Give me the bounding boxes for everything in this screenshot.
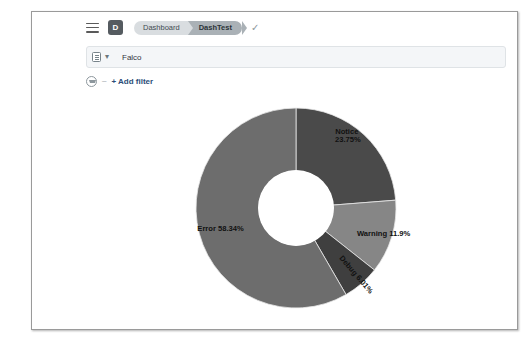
donut-chart-panel: Notice 23.75% Error 58.34% Warning 11.9%… (86, 92, 506, 325)
chevron-down-icon: ▾ (105, 53, 109, 61)
filter-bar: – + Add filter (86, 74, 153, 88)
donut-label-warning: Warning 11.9% (357, 229, 411, 238)
filter-funnel-icon[interactable] (86, 76, 97, 87)
breadcrumb-item-dashboard[interactable]: Dashboard (134, 21, 188, 35)
query-bar-container: ▾ Falco (86, 46, 506, 68)
add-filter-button[interactable]: + Add filter (111, 77, 153, 86)
data-view-icon (92, 52, 101, 62)
filter-separator: – (102, 77, 106, 85)
breadcrumb: Dashboard DashTest (134, 21, 242, 35)
donut-label-notice: Notice 23.75% (335, 127, 361, 145)
app-logo-badge[interactable]: D (108, 20, 123, 35)
dashboard-window: D Dashboard DashTest ✓ ▾ Falco – + Add f… (31, 11, 518, 330)
screenshot-root: D Dashboard DashTest ✓ ▾ Falco – + Add f… (0, 0, 531, 341)
donut-chart[interactable]: Notice 23.75% Error 58.34% Warning 11.9%… (146, 92, 446, 324)
top-navigation-bar: D Dashboard DashTest ✓ (32, 12, 517, 43)
check-icon[interactable]: ✓ (251, 23, 259, 33)
search-input-value: Falco (122, 53, 142, 62)
hamburger-menu-icon[interactable] (86, 23, 99, 33)
search-input[interactable]: ▾ Falco (86, 46, 506, 68)
donut-label-error: Error 58.34% (197, 224, 244, 233)
donut-center-hole (258, 170, 334, 246)
breadcrumb-item-dashtest[interactable]: DashTest (188, 21, 242, 35)
data-view-selector[interactable]: ▾ (92, 52, 115, 62)
